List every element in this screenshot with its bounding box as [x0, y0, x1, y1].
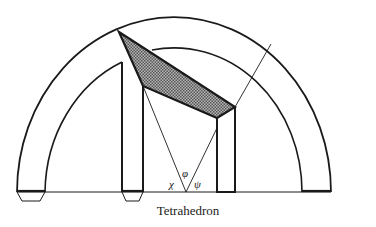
tetrahedron-diagram: χ φ ψ [0, 0, 376, 227]
shaded-face [119, 32, 235, 118]
inner-arc-left [45, 62, 122, 192]
outer-arc [17, 17, 331, 192]
label-chi: χ [168, 178, 175, 190]
left-foot [17, 192, 45, 201]
right-pillar [217, 107, 235, 192]
label-psi: ψ [194, 178, 201, 190]
figure-caption: Tetrahedron [0, 203, 376, 219]
line-radial [235, 44, 271, 107]
line-psi [186, 128, 217, 192]
left-pillar-foot [122, 192, 143, 201]
label-phi: φ [182, 167, 188, 179]
